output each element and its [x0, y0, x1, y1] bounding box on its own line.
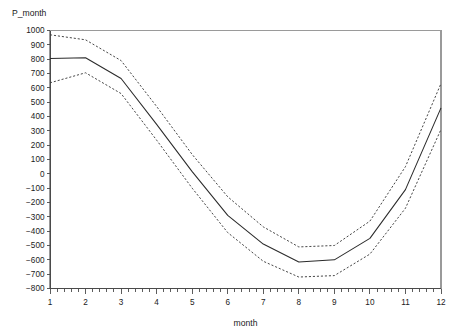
plot-frame [50, 31, 441, 289]
y-tick-label: −100 [26, 184, 45, 193]
y-tick-label: 900 [31, 41, 45, 50]
y-tick-label: 100 [31, 155, 45, 164]
x-tick-label: 5 [190, 298, 195, 307]
y-tick-label: 0 [40, 170, 45, 179]
y-tick-label: −800 [26, 284, 45, 293]
x-tick-label: 11 [401, 298, 410, 307]
y-tick-label: −600 [26, 256, 45, 265]
p-month-line-chart: 10009008007006005004003002001000−100−200… [0, 0, 460, 334]
x-axis-title: month [234, 318, 258, 328]
series-line-predicted [50, 58, 441, 262]
y-tick-label: 500 [31, 98, 45, 107]
x-tick-label: 9 [332, 298, 337, 307]
x-tick-label: 1 [48, 298, 53, 307]
y-tick-label: 800 [31, 55, 45, 64]
series-line-confidence-limit [50, 73, 441, 277]
x-tick-label: 10 [365, 298, 375, 307]
y-tick-label: 200 [31, 141, 45, 150]
y-tick-label: 700 [31, 69, 45, 78]
y-tick-label: 1000 [26, 26, 45, 35]
x-tick-label: 8 [297, 298, 302, 307]
y-tick-label: 300 [31, 127, 45, 136]
y-tick-label: −300 [26, 213, 45, 222]
x-tick-label: 12 [436, 298, 446, 307]
y-tick-label: −400 [26, 227, 45, 236]
y-axis-title: P_month [12, 8, 47, 18]
x-tick-label: 2 [83, 298, 88, 307]
x-tick-label: 7 [261, 298, 266, 307]
x-tick-label: 3 [119, 298, 124, 307]
y-tick-label: −500 [26, 241, 45, 250]
series-line-confidence-limit [50, 35, 441, 247]
y-tick-label: 400 [31, 112, 45, 121]
x-tick-label: 6 [225, 298, 230, 307]
y-tick-label: 600 [31, 84, 45, 93]
y-tick-label: −200 [26, 198, 45, 207]
y-tick-label: −700 [26, 270, 45, 279]
chart-container: 10009008007006005004003002001000−100−200… [0, 0, 460, 334]
x-tick-label: 4 [154, 298, 159, 307]
